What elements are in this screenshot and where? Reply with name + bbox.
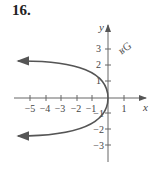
y-tick-label: −2	[93, 124, 104, 135]
x-tick-label: −4	[40, 103, 51, 114]
y-axis-label: y	[98, 21, 104, 33]
x-tick-label: −2	[71, 103, 82, 114]
y-tick-label: 2	[96, 59, 101, 70]
x-tick-label: −3	[55, 103, 66, 114]
y-tick-label: 3	[96, 43, 101, 54]
handwritten-annotation: ʁG	[116, 39, 134, 56]
x-tick-label: 1	[122, 103, 127, 114]
x-axis-label: x	[142, 101, 148, 113]
y-tick-label: −3	[93, 140, 104, 151]
parabola-curve	[18, 61, 108, 98]
graph: −5 −4 −3 −2 −1 1 3 2 1 −1 −2 −3 x y ʁG	[0, 0, 155, 172]
x-tick-label: −5	[25, 103, 36, 114]
